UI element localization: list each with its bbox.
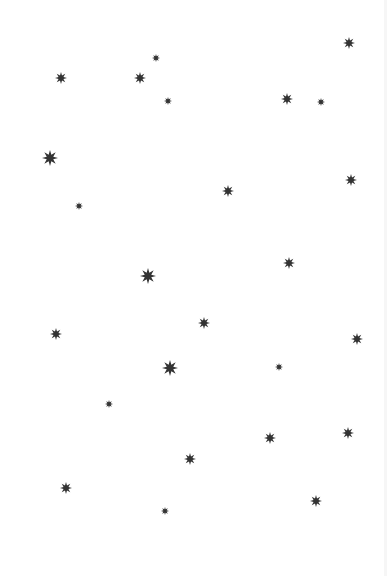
star-icon: [134, 72, 146, 84]
star-icon: [140, 268, 156, 284]
star-icon: [345, 174, 357, 186]
star-field: [0, 0, 387, 576]
star-icon: [42, 150, 58, 166]
star-icon: [75, 202, 83, 210]
star-icon: [283, 257, 295, 269]
star-icon: [152, 54, 160, 62]
star-icon: [198, 317, 210, 329]
star-icon: [161, 507, 169, 515]
star-icon: [60, 482, 72, 494]
star-icon: [342, 427, 354, 439]
star-icon: [317, 98, 325, 106]
star-icon: [281, 93, 293, 105]
star-icon: [310, 495, 322, 507]
star-icon: [184, 453, 196, 465]
star-icon: [162, 360, 178, 376]
star-icon: [275, 363, 283, 371]
star-icon: [164, 97, 172, 105]
star-icon: [105, 400, 113, 408]
star-icon: [222, 185, 234, 197]
star-icon: [50, 328, 62, 340]
star-icon: [264, 432, 276, 444]
star-icon: [351, 333, 363, 345]
star-icon: [55, 72, 67, 84]
star-icon: [343, 37, 355, 49]
